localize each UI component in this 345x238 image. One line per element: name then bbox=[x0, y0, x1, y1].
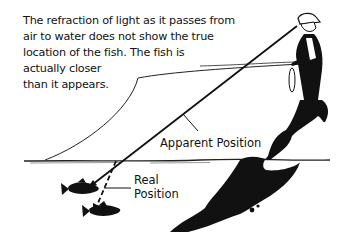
refraction-illustration bbox=[0, 0, 345, 238]
fish-real-icon bbox=[82, 201, 120, 217]
line-of-sight bbox=[88, 26, 297, 188]
real-position-line-2: Position bbox=[134, 187, 179, 201]
real-path-dashed bbox=[95, 161, 116, 210]
real-position-line-1: Real bbox=[134, 173, 179, 187]
real-position-label: Real Position bbox=[134, 173, 179, 201]
water-surface-line bbox=[24, 159, 330, 161]
apparent-leader bbox=[183, 114, 198, 131]
rocky-bank bbox=[170, 100, 328, 232]
apparent-position-label: Apparent Position bbox=[160, 136, 261, 150]
